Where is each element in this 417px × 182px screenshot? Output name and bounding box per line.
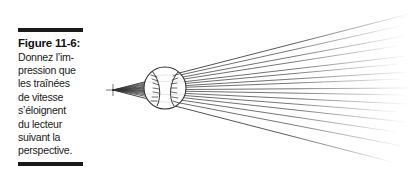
baseball-speed-lines-illustration bbox=[0, 0, 417, 182]
figure-page: Figure 11-6: Donnez l’im- pression que l… bbox=[0, 0, 417, 182]
speed-lines-group bbox=[106, 14, 410, 162]
vanishing-point-marker bbox=[106, 84, 121, 96]
baseball bbox=[144, 67, 186, 109]
